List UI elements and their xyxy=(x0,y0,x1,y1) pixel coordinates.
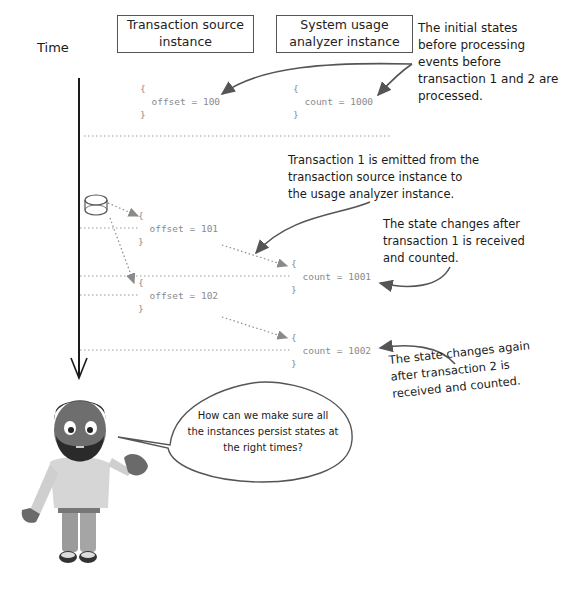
column-header-line: System usage xyxy=(277,16,412,33)
state-initial-analyzer: { count = 1000 } xyxy=(293,82,373,121)
column-header-transaction-source: Transaction source instance xyxy=(117,15,254,53)
time-label: Time xyxy=(37,40,69,55)
state-analyzer-after-t2: { count = 1002 } xyxy=(291,331,371,370)
bearded-man-character xyxy=(22,400,148,563)
column-header-line: Transaction source xyxy=(118,16,253,33)
state-analyzer-after-t1: { count = 1001 } xyxy=(291,257,371,296)
speech-bubble-text: How can we make sure all the instances p… xyxy=(168,408,358,456)
database-cylinder-icon xyxy=(85,195,107,215)
annotation-transaction-emitted: Transaction 1 is emitted from the transa… xyxy=(288,152,479,203)
annotation-initial-states: The initial states before processing eve… xyxy=(418,20,558,105)
column-header-line: analyzer instance xyxy=(277,33,412,50)
annotation-state-changes-t1: The state changes after transaction 1 is… xyxy=(383,216,525,267)
arrow-emitted xyxy=(256,202,370,253)
state-initial-source: { offset = 100 } xyxy=(140,82,220,121)
state-source-after-t2: { offset = 102 } xyxy=(138,276,218,315)
column-header-line: instance xyxy=(118,33,253,50)
state-source-after-t1: { offset = 101 } xyxy=(138,209,218,248)
arrow-changed-t1 xyxy=(380,267,450,286)
column-header-usage-analyzer: System usage analyzer instance xyxy=(276,15,413,53)
arrow-initial-to-analyzer xyxy=(378,64,412,95)
